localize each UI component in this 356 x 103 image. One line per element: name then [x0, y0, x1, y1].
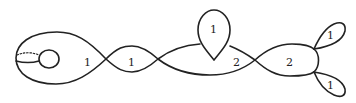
- diagram-curves: [0, 0, 356, 103]
- label-lens-2: 2: [233, 57, 240, 68]
- lens-2-bottom: [158, 59, 255, 75]
- left-blob-curve: [16, 32, 106, 84]
- diagram: 1 1 1 2 2 1 1: [0, 0, 356, 103]
- label-lens-1: 1: [128, 57, 135, 68]
- label-petal-bottom: 1: [327, 80, 334, 91]
- label-left-blob: 1: [84, 57, 91, 68]
- label-petal-top: 1: [327, 30, 334, 41]
- lens-2-top: [158, 44, 200, 59]
- handle-solid: [16, 61, 39, 63]
- label-teardrop: 1: [210, 24, 217, 35]
- handle-dotted: [17, 53, 39, 55]
- label-right-lobe: 2: [286, 57, 293, 68]
- hole-circle: [39, 50, 59, 68]
